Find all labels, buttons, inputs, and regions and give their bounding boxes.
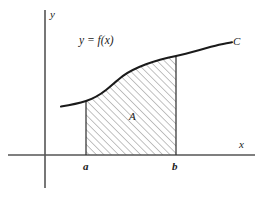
y-axis-label: y (50, 9, 55, 20)
x-axis-label: x (239, 139, 244, 150)
figure-canvas (0, 0, 263, 200)
upper-bound-label-b: b (172, 161, 178, 172)
area-label-a: A (129, 111, 136, 122)
area-under-curve-figure: y x C y = f(x) A a b (0, 0, 263, 200)
shaded-region-a (80, 45, 184, 163)
lower-bound-label-a: a (83, 161, 89, 172)
curve-label-c: C (233, 36, 240, 47)
function-equation-label: y = f(x) (79, 35, 114, 47)
